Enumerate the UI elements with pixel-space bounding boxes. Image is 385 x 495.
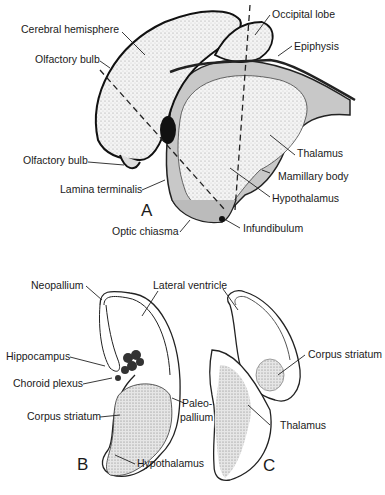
label-corpus-striatum-c: Corpus striatum [308,349,382,361]
label-hippocampus: Hippocampus [6,351,70,363]
figure-c-drawing [210,291,301,480]
label-mamillary-body: Mamillary body [278,171,349,183]
label-olfactory-bulb-top: Olfactory bulb [35,54,100,66]
label-infundibulum: Infundibulum [243,223,303,235]
label-corpus-striatum-b: Corpus striatum [27,411,101,423]
brain-development-diagram: Cerebral hemisphere Olfactory bulb Occip… [0,0,385,495]
label-epiphysis: Epiphysis [294,41,339,53]
label-neopallium: Neopallium [31,280,84,292]
figure-letter-b: B [77,455,88,475]
label-lamina-terminalis: Lamina terminalis [60,184,142,196]
label-thalamus-a: Thalamus [297,148,343,160]
figure-letter-a: A [141,201,152,221]
label-occipital-lobe: Occipital lobe [272,9,335,21]
label-hypothalamus-b: Hypothalamus [137,458,204,470]
figure-letter-c: C [263,456,275,476]
figure-b-drawing [99,291,180,476]
label-olfactory-bulb-bottom: Olfactory bulb [23,155,88,167]
label-thalamus-c: Thalamus [280,420,326,432]
label-optic-chiasma: Optic chiasma [112,226,179,238]
label-paleopallium-2: pallium [180,412,213,424]
label-lateral-ventricle: Lateral ventricle [153,280,227,292]
label-cerebral-hemisphere: Cerebral hemisphere [21,24,119,36]
label-paleopallium-1: Paleo- [182,398,212,410]
label-hypothalamus-a: Hypothalamus [272,193,339,205]
label-choroid-plexus: Choroid plexus [13,378,83,390]
